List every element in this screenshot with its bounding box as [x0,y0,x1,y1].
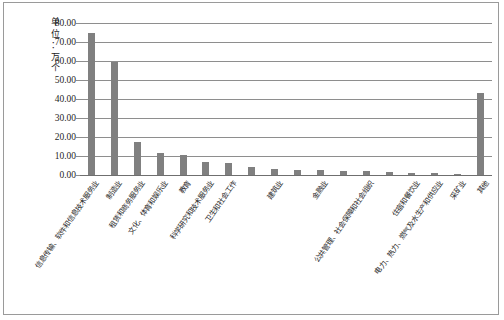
bar [134,142,141,175]
bar-series [80,23,492,175]
y-tick-label: 10.00 [55,151,76,161]
y-tick-label: 70.00 [55,37,76,47]
x-axis-category-labels: 信息传输、软件和信息技术服务业制造业租赁和商务服务业文化、体育和娱乐业教育科学研… [80,175,492,315]
bar [88,33,95,175]
y-tick-label: 50.00 [55,75,76,85]
y-tick-label: 40.00 [55,94,76,104]
y-tick-label: 30.00 [55,113,76,123]
bar [202,162,209,175]
y-tick-label: 60.00 [55,56,76,66]
y-tick-label: 0.00 [59,170,76,180]
y-tick-label: 20.00 [55,132,76,142]
chart-frame: 单 位 ： 万 个 0.0010.0020.0030.0040.0050.006… [3,2,499,315]
plot-area: 0.0010.0020.0030.0040.0050.0060.0070.008… [80,23,492,175]
y-tick-label: 80.00 [55,18,76,28]
